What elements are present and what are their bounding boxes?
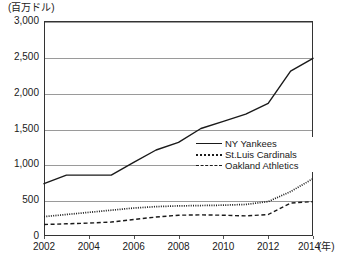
y-tick-label: 3,000 xyxy=(0,16,39,26)
x-tick-mark xyxy=(179,236,180,239)
legend-line-dotted-icon xyxy=(196,151,222,159)
x-tick-label: 2004 xyxy=(78,241,100,253)
legend-item-ny-yankees: NY Yankees xyxy=(196,138,314,149)
series-lines xyxy=(44,21,313,236)
legend-line-solid-icon xyxy=(196,140,222,148)
legend-label: Oakland Athletics xyxy=(225,160,298,171)
x-tick-label: 2008 xyxy=(167,241,189,253)
line-chart: (百万ドル) 3,000 2,500 2,000 1,500 1,000 500… xyxy=(0,0,351,270)
y-tick-label: 1,500 xyxy=(0,124,39,134)
x-tick-label: 2010 xyxy=(212,241,234,253)
x-tick-label: 2006 xyxy=(123,241,145,253)
y-tick-label: 2,500 xyxy=(0,52,39,62)
legend-item-oakland-athletics: Oakland Athletics xyxy=(196,160,314,171)
y-tick-label: 0 xyxy=(0,231,39,241)
y-axis-unit-label: (百万ドル) xyxy=(8,2,55,14)
y-tick-label: 2,000 xyxy=(0,88,39,98)
x-tick-label: 2012 xyxy=(257,241,279,253)
x-tick-mark xyxy=(44,236,45,239)
x-tick-mark xyxy=(134,236,135,239)
x-tick-mark xyxy=(223,236,224,239)
legend: NY Yankees St.Luis Cardinals Oakland Ath… xyxy=(196,137,314,172)
x-tick-label: 2014 xyxy=(298,241,320,253)
y-tick-label: 500 xyxy=(0,195,39,205)
legend-label: St.Luis Cardinals xyxy=(225,149,297,160)
legend-label: NY Yankees xyxy=(225,138,277,149)
x-tick-mark xyxy=(268,236,269,239)
x-tick-mark xyxy=(89,236,90,239)
x-tick-label: 2002 xyxy=(33,241,55,253)
legend-line-dashed-icon xyxy=(196,162,222,170)
x-tick-mark xyxy=(313,236,314,239)
series-line-oakland-athletics xyxy=(44,202,313,225)
series-line-stluis-cardinals xyxy=(44,179,313,217)
legend-item-stluis-cardinals: St.Luis Cardinals xyxy=(196,149,314,160)
x-axis-unit-label: (年) xyxy=(318,241,335,253)
y-tick-label: 1,000 xyxy=(0,159,39,169)
